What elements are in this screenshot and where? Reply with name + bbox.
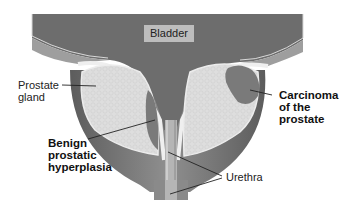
label-carcinoma-line2: of the — [279, 101, 338, 113]
label-bph: Benign prostatic hyperplasia — [48, 137, 112, 173]
label-carcinoma-line1: Carcinoma — [279, 89, 338, 101]
prostate-diagram: Bladder Prostate gland Benign prostatic … — [0, 0, 348, 210]
label-bph-line3: hyperplasia — [48, 161, 112, 173]
label-bph-line2: prostatic — [48, 149, 112, 161]
label-carcinoma: Carcinoma of the prostate — [279, 89, 338, 125]
label-prostate-gland: Prostate gland — [18, 79, 59, 103]
label-bladder: Bladder — [144, 25, 194, 42]
label-bph-line1: Benign — [48, 137, 112, 149]
label-prostate-line2: gland — [18, 91, 59, 103]
label-urethra: Urethra — [226, 171, 263, 183]
label-prostate-line1: Prostate — [18, 79, 59, 91]
label-carcinoma-line3: prostate — [279, 113, 338, 125]
